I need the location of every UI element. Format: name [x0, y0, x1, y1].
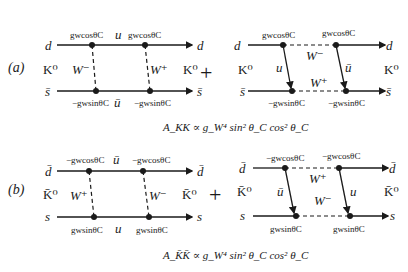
boson-label: W⁻: [149, 188, 167, 203]
boson-label: W⁺: [70, 188, 88, 203]
amplitude-formula-b: A_K̄K̄ ∝ g_W⁴ sin² θ_C cos² θ_C: [162, 249, 309, 261]
boson-label: W⁻: [306, 48, 324, 63]
quark-label: ū: [345, 60, 352, 75]
boson-label: W⁺: [309, 171, 327, 186]
quark-label: ū: [113, 152, 120, 167]
vertex: [289, 88, 295, 94]
quark-label: s: [390, 208, 395, 223]
coupling-label: −gwcosθC: [66, 155, 104, 165]
internal-quark-1: [283, 45, 291, 88]
quark-label: d̄: [45, 164, 52, 179]
coupling-label: gwcosθC: [322, 28, 355, 38]
quark-label: d̄: [197, 164, 204, 179]
diagram-a-right: d s̄ K⁰ gwcosθC gwcosθC −gwsinθC −gwsinθ…: [234, 28, 399, 108]
vertex: [147, 88, 153, 94]
vertex: [91, 214, 97, 220]
coupling-label: gwcosθC: [70, 30, 103, 40]
quark-label: d̄: [389, 161, 396, 176]
vertex: [280, 42, 286, 48]
coupling-label: −gwsinθC: [72, 98, 109, 108]
vertex: [282, 165, 288, 171]
boson-label: W⁻: [72, 62, 90, 77]
vertex: [293, 213, 299, 219]
coupling-label: gwsinθC: [333, 224, 365, 234]
quark-label: ū: [114, 95, 121, 110]
quark-label: s̄: [45, 84, 51, 99]
quark-label: ū: [277, 184, 284, 199]
quark-label: d: [45, 38, 52, 53]
coupling-label: −gwcosθC: [132, 155, 170, 165]
vertex: [86, 168, 92, 174]
meson-label: K̄⁰: [43, 187, 58, 202]
diagram-b-label: (b): [8, 182, 25, 198]
coupling-label: gwsinθC: [270, 224, 302, 234]
boson-label: W⁻: [314, 193, 332, 208]
meson-label: K⁰: [183, 62, 198, 77]
w-boson-line-1: [89, 171, 94, 217]
coupling-label: −gwcosθC: [266, 153, 304, 163]
meson-label: K⁰: [43, 62, 58, 77]
vertex: [347, 213, 353, 219]
vertex: [343, 88, 349, 94]
quark-label: u: [350, 184, 357, 199]
quark-label: d: [197, 38, 204, 53]
quark-label: s: [197, 209, 202, 224]
quark-label: s̄: [386, 84, 392, 99]
coupling-label: gwcosθC: [128, 30, 161, 40]
quark-label: d: [386, 38, 393, 53]
coupling-label: −gwsinθC: [268, 98, 305, 108]
diagram-a-label: (a): [8, 60, 25, 76]
vertex: [140, 168, 146, 174]
vertex: [336, 165, 342, 171]
quark-label: u: [115, 221, 122, 236]
quark-label: u: [115, 27, 122, 42]
vertex: [142, 42, 148, 48]
coupling-label: gwsinθC: [136, 225, 168, 235]
internal-quark-2: [339, 168, 348, 213]
meson-label: K̄⁰: [182, 187, 197, 202]
diagram-b-left: (b) d̄ s K̄⁰ −gwcosθC ū −gwcosθC gwsinθC…: [8, 152, 192, 236]
vertex: [146, 214, 152, 220]
vertex: [93, 88, 99, 94]
quark-label: s: [240, 208, 245, 223]
plus-sign: +: [209, 182, 221, 207]
quark-label: u: [276, 60, 283, 75]
internal-quark-2: [336, 45, 345, 88]
w-boson-line-1: [92, 45, 96, 91]
diagram-a-left: (a) d s̄ K⁰ gwcosθC u gwcosθC −gwsinθC ū…: [8, 27, 192, 110]
plus-sign: +: [200, 60, 212, 85]
quark-label: d: [234, 38, 241, 53]
quark-label: s̄: [240, 84, 246, 99]
internal-quark-1: [285, 168, 294, 213]
feynman-box-diagrams: (a) d s̄ K⁰ gwcosθC u gwcosθC −gwsinθC ū…: [0, 0, 408, 272]
meson-label: K⁰: [238, 62, 253, 77]
meson-label: K⁰: [384, 62, 399, 77]
coupling-label: −gwsinθC: [134, 98, 171, 108]
quark-label: s: [45, 209, 50, 224]
coupling-label: −gwcosθC: [322, 151, 360, 161]
vertex: [333, 42, 339, 48]
amplitude-formula-a: A_KK ∝ g_W⁴ sin² θ_C cos² θ_C: [162, 121, 309, 133]
meson-label: K̄⁰: [237, 184, 252, 199]
quark-label: d̄: [239, 161, 246, 176]
boson-label: W⁺: [150, 62, 168, 77]
coupling-label: gwcosθC: [262, 30, 295, 40]
diagram-b-right: d̄ s K̄⁰ −gwcosθC −gwcosθC gwsinθC gwsin…: [237, 151, 399, 234]
coupling-label: −gwsinθC: [328, 98, 365, 108]
coupling-label: gwsinθC: [71, 225, 103, 235]
quark-label: s̄: [197, 84, 203, 99]
vertex: [89, 42, 95, 48]
meson-label: K̄⁰: [384, 184, 399, 199]
boson-label: W⁺: [310, 75, 328, 90]
